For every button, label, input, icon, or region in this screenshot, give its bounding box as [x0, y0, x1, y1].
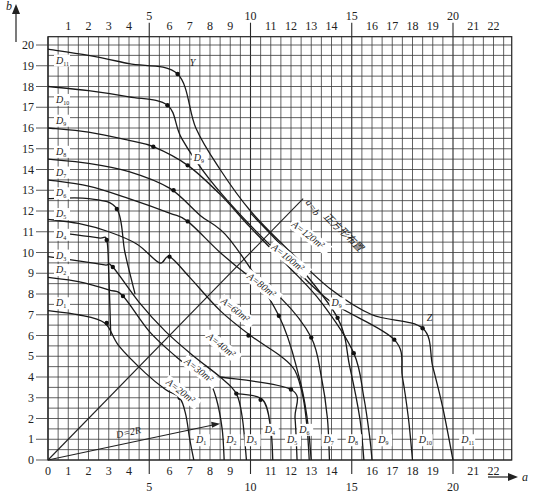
x-tick-label: 4 [126, 464, 132, 478]
curve-point-marker [105, 321, 109, 325]
x-top-tick-label: 9 [227, 19, 233, 33]
x-tick-label: 3 [106, 464, 112, 478]
x-top-tick-label: 1 [65, 19, 71, 33]
curve-point-marker [121, 294, 125, 298]
curve-point-marker [352, 351, 356, 355]
y-axis-title: b [6, 0, 12, 13]
x-top-tick-label: 7 [187, 19, 193, 33]
left-d-label: D8 [54, 146, 70, 158]
x-top-tick-label: 6 [167, 19, 173, 33]
curve-point-marker [392, 337, 396, 341]
x-top-tick-label: 16 [366, 19, 378, 33]
x-top-tick-label-major: 20 [447, 9, 459, 23]
bottom-d-label: D4 [263, 424, 279, 436]
x-tick-label: 1 [65, 464, 71, 478]
y-tick-label: 6 [28, 329, 34, 343]
left-d-label: D7 [54, 167, 70, 179]
x-top-tick-label-major: 5 [146, 9, 152, 23]
y-tick-label: 2 [28, 412, 34, 426]
y-tick-label: 15 [22, 142, 34, 156]
left-d-label: D2 [54, 264, 70, 276]
x-tick-label: 21 [467, 464, 479, 478]
bottom-d-label: D2 [224, 434, 240, 446]
bottom-d-label: D9 [376, 434, 392, 446]
svg-text:A=80m²: A=80m² [244, 270, 278, 300]
y-arrow-head-icon [12, 4, 20, 14]
left-d-label: D1 [54, 297, 70, 309]
left-d-label: D11 [54, 55, 70, 67]
x-top-tick-label-major: 15 [346, 9, 358, 23]
x-top-tick-label: 17 [386, 19, 398, 33]
area-label: A=120m² [288, 217, 333, 256]
left-d-label: D4 [54, 229, 70, 241]
x-top-tick-label: 22 [488, 19, 500, 33]
x-top-tick-label: 21 [467, 19, 479, 33]
y-tick-label: 7 [28, 308, 34, 322]
curve-point-marker [309, 335, 313, 339]
y-tick-label: 19 [22, 59, 34, 73]
x-tick-label: 12 [285, 464, 297, 478]
x-top-tick-label: 12 [285, 19, 297, 33]
y-tick-label: 13 [22, 183, 34, 197]
x-axis-title: a [522, 470, 528, 484]
x-tick-label: 11 [265, 464, 277, 478]
labels: 0123467891112131416171819212251015201234… [6, 0, 528, 494]
bottom-d-label: D6 [297, 424, 313, 436]
y-tick-label: 10 [22, 246, 34, 260]
x-top-tick-label: 18 [407, 19, 419, 33]
svg-text:A=40m²: A=40m² [204, 330, 238, 360]
bottom-d-label: D1 [194, 434, 210, 446]
curve-point-marker [335, 316, 339, 320]
x-tick-label: 22 [488, 464, 500, 478]
x-tick-label: 16 [366, 464, 378, 478]
left-d-label: D10 [54, 94, 70, 106]
bottom-d-label: D3 [245, 434, 261, 446]
left-d-label: D5 [54, 208, 70, 220]
curve-point-marker [277, 314, 281, 318]
x-top-tick-label: 14 [326, 19, 338, 33]
x-top-tick-label: 2 [86, 19, 92, 33]
x-tick-label: 0 [45, 464, 51, 478]
x-tick-label: 14 [326, 464, 338, 478]
x-tick-label: 17 [386, 464, 398, 478]
x-top-tick-label: 11 [265, 19, 277, 33]
curve-point-marker [186, 163, 190, 167]
y-tick-label: 3 [28, 391, 34, 405]
x-top-tick-label: 13 [305, 19, 317, 33]
y-tick-label: 9 [28, 266, 34, 280]
curve-point-marker [175, 72, 179, 76]
x-tick-label: 13 [305, 464, 317, 478]
bottom-d-label: D8 [346, 434, 362, 446]
area-label: A=40m² [203, 329, 243, 364]
y-tick-label: 16 [22, 121, 34, 135]
left-d-label: D3 [54, 250, 70, 262]
curve-point-marker [111, 265, 115, 269]
y-tick-label: 18 [22, 80, 34, 94]
radius-arrow-head-icon [211, 422, 220, 428]
curve-point-marker [186, 219, 190, 223]
x-arrow-head-icon [508, 473, 518, 481]
x-tick-label-major: 15 [346, 480, 358, 494]
x-top-tick-label-major: 10 [245, 9, 257, 23]
point-label: Z [427, 312, 433, 323]
point-d-label: D9 [330, 297, 346, 309]
x-tick-label: 2 [86, 464, 92, 478]
left-d-label: D9 [54, 115, 70, 127]
svg-text:A=60m²: A=60m² [218, 295, 252, 325]
curve-point-marker [151, 144, 155, 148]
bottom-d-label: D10 [417, 434, 433, 446]
curve-point-marker [167, 254, 171, 258]
x-tick-label: 6 [167, 464, 173, 478]
x-top-tick-label: 19 [427, 19, 439, 33]
bottom-d-label: D11 [459, 434, 475, 446]
x-top-tick-label: 4 [126, 19, 132, 33]
left-d-label: D6 [54, 187, 70, 199]
radius-label: D=2R [114, 424, 142, 440]
curve-point-marker [246, 333, 250, 337]
curve-point-marker [289, 387, 293, 391]
diagonal-line [48, 199, 303, 460]
y-tick-label: 11 [22, 225, 34, 239]
y-tick-label: 4 [28, 370, 34, 384]
y-tick-label: 8 [28, 287, 34, 301]
y-tick-label: 20 [22, 38, 34, 52]
